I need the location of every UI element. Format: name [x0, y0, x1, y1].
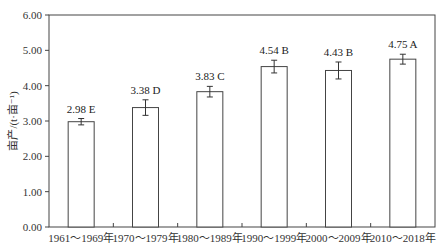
- x-category-label: 1970～1979年: [113, 231, 179, 244]
- y-axis: 0.001.002.003.004.005.006.00: [23, 9, 49, 233]
- y-tick-label: 3.00: [23, 115, 43, 127]
- bars: 2.98 E3.38 D3.83 C4.54 B4.43 B4.75 A: [67, 38, 418, 227]
- plot-border: [49, 15, 435, 227]
- bar-value-label: 3.38 D: [131, 84, 161, 96]
- y-tick-label: 0.00: [23, 221, 43, 233]
- bar-value-label: 4.43 B: [324, 46, 353, 58]
- y-tick-label: 4.00: [23, 80, 43, 92]
- bar: [68, 122, 94, 227]
- bar-group: 2.98 E: [67, 103, 96, 227]
- y-tick-label: 1.00: [23, 186, 43, 198]
- bar-group: 3.38 D: [131, 84, 161, 227]
- bar-value-label: 4.54 B: [259, 44, 288, 56]
- x-category-label: 1990～1999年: [241, 231, 307, 244]
- bar-group: 4.75 A: [388, 38, 417, 227]
- bar-value-label: 2.98 E: [67, 103, 96, 115]
- x-category-label: 2010～2018年: [370, 231, 436, 244]
- x-category-label: 2000～2009年: [306, 231, 372, 244]
- bar-value-label: 3.83 C: [195, 70, 224, 82]
- bar-group: 4.54 B: [259, 44, 288, 227]
- bar-chart: 0.001.002.003.004.005.006.00 2.98 E3.38 …: [0, 0, 444, 252]
- bar: [133, 108, 159, 227]
- bar-value-label: 4.75 A: [388, 38, 417, 50]
- y-tick-label: 6.00: [23, 9, 43, 21]
- x-category-label: 1961～1969年: [48, 231, 114, 244]
- bar: [326, 70, 352, 227]
- plot-frame: [49, 15, 435, 227]
- x-category-label: 1980～1989年: [177, 231, 243, 244]
- bar-group: 3.83 C: [195, 70, 224, 227]
- y-tick-label: 2.00: [23, 150, 43, 162]
- bar: [261, 67, 287, 227]
- bar: [390, 59, 416, 227]
- y-axis-label: 亩产/(t·亩⁻¹): [6, 91, 20, 151]
- bar-group: 4.43 B: [324, 46, 353, 227]
- bar: [197, 92, 223, 227]
- x-axis: 1961～1969年1970～1979年1980～1989年1990～1999年…: [48, 223, 436, 244]
- y-tick-label: 5.00: [23, 44, 43, 56]
